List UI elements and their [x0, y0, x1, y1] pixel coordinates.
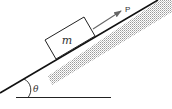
incline-diagram: m P θ — [0, 0, 172, 109]
force-label: P — [125, 5, 130, 14]
angle-arc — [24, 79, 31, 98]
mass-label: m — [62, 34, 72, 47]
force-arrow — [93, 11, 121, 29]
incline-surface — [0, 0, 158, 93]
angle-label: θ — [33, 84, 39, 94]
